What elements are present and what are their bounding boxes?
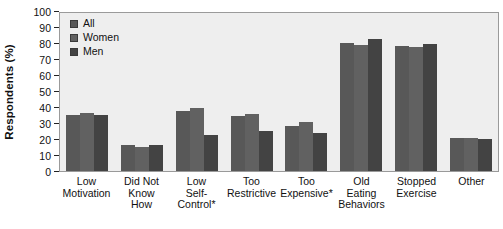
bar-all[interactable] (176, 111, 190, 171)
bar-women[interactable] (135, 147, 149, 171)
bar-women[interactable] (299, 122, 313, 171)
x-axis-label: Too Expensive* (279, 176, 334, 229)
bar-group (224, 13, 279, 171)
bar-women[interactable] (464, 138, 478, 171)
bar-all[interactable] (450, 138, 464, 171)
y-axis-tick: 40 (39, 103, 59, 114)
bar-group (389, 13, 444, 171)
bar-group (443, 13, 498, 171)
x-axis-label: Other (444, 176, 499, 229)
y-axis-tick-label: 80 (39, 39, 51, 50)
y-axis-tick: 90 (39, 23, 59, 34)
y-axis-tick-label: 50 (39, 87, 51, 98)
y-axis-tick-label: 0 (45, 167, 51, 178)
legend-swatch-icon (70, 34, 78, 42)
y-axis-tick-label: 10 (39, 151, 51, 162)
bar-group (334, 13, 389, 171)
legend-item[interactable]: All (70, 17, 119, 30)
bar-men[interactable] (149, 145, 163, 171)
bars-layer (60, 13, 498, 171)
bar-women[interactable] (245, 114, 259, 171)
x-axis-label: Low Self- Control* (169, 176, 224, 229)
y-axis-tick-label: 60 (39, 71, 51, 82)
y-axis-tick: 30 (39, 119, 59, 130)
legend-item[interactable]: Women (70, 31, 119, 44)
bar-men[interactable] (423, 44, 437, 171)
bar-all[interactable] (231, 116, 245, 171)
y-axis-tick: 60 (39, 71, 59, 82)
legend-item[interactable]: Men (70, 45, 119, 58)
bar-all[interactable] (395, 46, 409, 171)
legend-item-label: Women (83, 32, 119, 43)
y-axis: 1009080706050403020100 (18, 12, 59, 172)
x-axis-label: Stopped Exercise (389, 176, 444, 229)
x-axis-labels: Low MotivationDid Not Know HowLow Self- … (59, 176, 499, 229)
bar-men[interactable] (368, 39, 382, 171)
y-axis-tick-label: 70 (39, 55, 51, 66)
y-axis-tick: 20 (39, 135, 59, 146)
bar-group (170, 13, 225, 171)
y-axis-tick: 100 (33, 7, 59, 18)
x-axis-label: Low Motivation (59, 176, 114, 229)
legend: AllWomenMen (70, 17, 119, 59)
y-axis-tick: 70 (39, 55, 59, 66)
bar-women[interactable] (354, 45, 368, 171)
bar-group (115, 13, 170, 171)
bar-all[interactable] (285, 126, 299, 171)
y-axis-title-text: Respondents (%) (3, 44, 15, 139)
bar-group (279, 13, 334, 171)
bar-men[interactable] (478, 139, 492, 171)
bar-women[interactable] (80, 113, 94, 171)
y-axis-tick: 50 (39, 87, 59, 98)
plot-inner: AllWomenMen (60, 13, 498, 171)
legend-item-label: All (83, 18, 95, 29)
bar-all[interactable] (340, 43, 354, 171)
y-axis-tick: 80 (39, 39, 59, 50)
bar-men[interactable] (313, 133, 327, 171)
legend-swatch-icon (70, 48, 78, 56)
y-axis-tick-label: 20 (39, 135, 51, 146)
y-axis-tick-label: 40 (39, 103, 51, 114)
bar-men[interactable] (94, 115, 108, 171)
bar-all[interactable] (121, 145, 135, 171)
x-axis-label: Too Restrictive (224, 176, 279, 229)
y-axis-title: Respondents (%) (0, 0, 18, 183)
y-axis-tick-label: 30 (39, 119, 51, 130)
y-axis-tick: 10 (39, 151, 59, 162)
y-axis-tick: 0 (45, 167, 59, 178)
bar-men[interactable] (204, 135, 218, 171)
x-axis-label: Old Eating Behaviors (334, 176, 389, 229)
y-axis-tick-label: 100 (33, 7, 51, 18)
plot-area: AllWomenMen (59, 12, 499, 172)
bar-all[interactable] (66, 115, 80, 171)
bar-women[interactable] (190, 108, 204, 171)
y-axis-tick-label: 90 (39, 23, 51, 34)
bar-men[interactable] (259, 131, 273, 171)
bar-chart: Respondents (%) 1009080706050403020100 A… (0, 0, 503, 229)
legend-swatch-icon (70, 20, 78, 28)
legend-item-label: Men (83, 46, 103, 57)
x-axis-label: Did Not Know How (114, 176, 169, 229)
bar-women[interactable] (409, 47, 423, 171)
